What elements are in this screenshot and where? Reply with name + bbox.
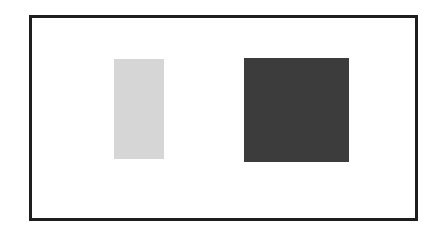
dark-gray-square [244,58,349,162]
light-gray-rectangle [114,59,164,159]
diagram-frame [29,15,418,221]
